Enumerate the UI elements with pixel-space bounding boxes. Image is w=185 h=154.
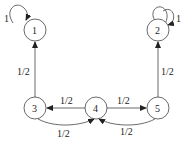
edge-label-5-4: 1/2 — [120, 126, 133, 137]
edge-label-3-1: 1/2 — [17, 66, 30, 77]
node-4: 4 — [85, 97, 107, 119]
node-3: 3 — [24, 97, 46, 119]
node-5: 5 — [147, 97, 169, 119]
edge-3-4 — [38, 119, 94, 125]
edge-label-4-3: 1/2 — [60, 95, 73, 106]
edge-label-2-2: 1 — [176, 13, 181, 24]
node-label-5: 5 — [155, 103, 160, 114]
node-2: 2 — [147, 19, 169, 41]
node-label-1: 1 — [32, 25, 37, 36]
markov-chain-diagram: 1 1 1/2 1/2 1/2 1/2 1/2 1/2 1 2 3 4 5 — [0, 0, 185, 154]
edge-label-1-1: 1 — [4, 13, 9, 24]
node-label-3: 3 — [32, 103, 37, 114]
edge-label-5-2: 1/2 — [161, 66, 174, 77]
edge-5-4 — [99, 119, 155, 125]
edge-1-1 — [10, 5, 28, 23]
node-label-4: 4 — [93, 103, 98, 114]
node-label-2: 2 — [155, 25, 160, 36]
edge-label-3-4: 1/2 — [57, 128, 70, 139]
node-1: 1 — [24, 19, 46, 41]
edge-label-4-5: 1/2 — [117, 95, 130, 106]
